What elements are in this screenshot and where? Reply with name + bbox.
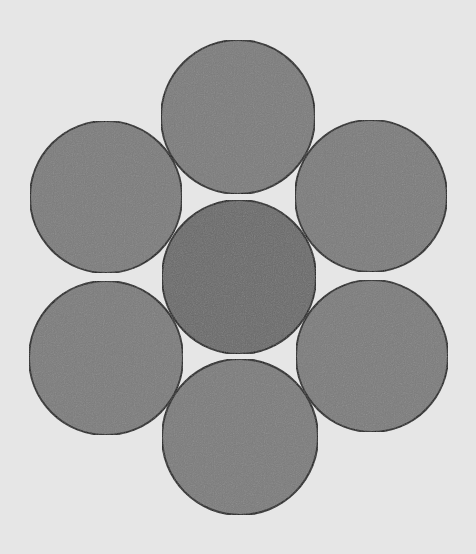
circle-upper-right	[295, 120, 447, 272]
hexagonal-circle-packing	[0, 0, 476, 554]
circle-lower-right	[296, 280, 448, 432]
circle-lower-left	[29, 281, 183, 435]
circle-upper-left	[30, 121, 182, 273]
circle-top	[161, 40, 315, 194]
circle-bottom	[162, 359, 318, 515]
circle-center	[162, 200, 316, 354]
diagram-canvas	[0, 0, 476, 554]
